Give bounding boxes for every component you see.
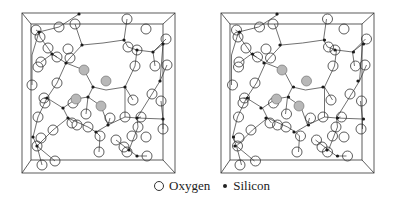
oxygen-atom [234, 112, 244, 122]
silicon-atom [336, 116, 339, 119]
oxygen-atom [235, 160, 245, 170]
silicon-atom [151, 50, 154, 53]
oxygen-atom-shaded [96, 101, 106, 111]
silicon-atom [66, 116, 69, 119]
bond-line [137, 118, 163, 119]
oxygen-atom [351, 61, 361, 71]
stereo-diagram [0, 0, 396, 206]
bond-line [88, 87, 93, 97]
oxygen-atom [36, 133, 46, 143]
oxygen-atom [357, 96, 367, 106]
silicon-atom [264, 116, 267, 119]
bond-line [68, 118, 88, 127]
bond-line [57, 63, 66, 83]
left-stereo-panel [22, 12, 175, 173]
bond-line [93, 87, 106, 90]
silicon-atom [233, 144, 236, 147]
bond-line [99, 136, 100, 152]
silicon-atom [122, 38, 125, 41]
silicon-atom [275, 12, 278, 15]
silicon-atom [232, 135, 235, 138]
bond-line [325, 117, 337, 118]
silicon-atom [45, 96, 48, 99]
bond-line [86, 97, 88, 114]
oxygen-atom-shaded [277, 65, 287, 75]
silicon-atom [356, 79, 359, 82]
silicon-atom [31, 135, 34, 138]
oxygen-atom [323, 14, 333, 24]
bond-line [96, 125, 108, 132]
bond-line [308, 117, 325, 125]
bond-line [40, 37, 48, 48]
oxygen-atom [339, 24, 349, 34]
silicon-atom [94, 130, 97, 133]
frame-edge [362, 160, 374, 173]
silicon-atom [325, 148, 328, 151]
bond-line [337, 50, 353, 52]
silicon-atom [287, 95, 290, 98]
bond-line [125, 66, 135, 87]
silicon-atom [123, 85, 126, 88]
bond-line [353, 52, 355, 66]
frame-edge [163, 13, 175, 24]
right-stereo-panel [221, 12, 374, 173]
frame-edge [221, 13, 230, 24]
legend-oxygen-label: Oxygen [169, 178, 210, 194]
silicon-atom [307, 123, 310, 126]
silicon-atom [161, 42, 164, 45]
bond-line [153, 44, 163, 52]
oxygen-atom [312, 135, 322, 145]
oxygen-atom-shaded [79, 65, 89, 75]
legend-silicon-label: Silicon [233, 178, 270, 194]
silicon-dot-icon [223, 184, 227, 188]
frame-edge [22, 13, 31, 24]
oxygen-atom [251, 156, 261, 166]
oxygen-atom [241, 43, 251, 53]
bond-line [63, 108, 68, 118]
oxygen-atom [250, 78, 260, 88]
frame-edge [163, 160, 175, 173]
bond-line [37, 146, 55, 161]
silicon-atom [158, 79, 161, 82]
silicon-atom [362, 42, 365, 45]
bond-line [47, 98, 63, 108]
oxygen-atom [296, 131, 306, 141]
bond-line [82, 43, 103, 45]
bond-line [37, 130, 53, 146]
silicon-atom [292, 85, 295, 88]
silicon-atom [64, 61, 67, 64]
bond-line [240, 37, 248, 48]
oxygen-atom [63, 44, 73, 54]
silicon-atom [321, 85, 324, 88]
bond-line [70, 45, 82, 58]
silicon-atom [323, 38, 326, 41]
silicon-atom [86, 95, 89, 98]
bond-line [106, 87, 125, 90]
oxygen-atom-shaded [272, 94, 282, 104]
bond-line [152, 81, 160, 94]
silicon-atom [333, 48, 336, 51]
silicon-atom [135, 48, 138, 51]
bond-line [257, 63, 266, 83]
silicon-atom [77, 12, 80, 15]
oxygen-atom [255, 22, 265, 32]
bond-line [232, 32, 239, 55]
oxygen-atom [261, 44, 271, 54]
bond-line [137, 94, 152, 118]
silicon-atom [135, 154, 138, 157]
oxygen-atom [326, 95, 336, 105]
bond-line [335, 50, 337, 66]
silicon-atom [251, 52, 254, 55]
bond-line [237, 146, 255, 161]
silicon-atom [161, 117, 164, 120]
oxygen-atom [228, 80, 238, 90]
bond-line [53, 118, 68, 130]
bond-line [299, 136, 300, 152]
bond-line [325, 87, 333, 100]
bond-line [282, 43, 303, 45]
silicon-atom [259, 106, 262, 109]
silicon-atom [336, 154, 339, 157]
bond-line [263, 108, 268, 118]
oxygen-circle-icon [154, 181, 164, 191]
bond-line [137, 50, 153, 52]
